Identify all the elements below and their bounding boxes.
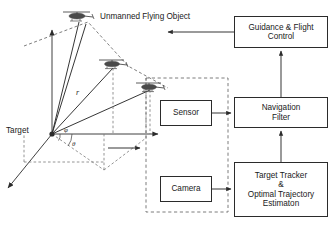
label-ufo-line-3: Object xyxy=(166,12,190,21)
block-guidance-line-1: Guidance & Flight xyxy=(248,23,313,32)
helicopter-top xyxy=(63,12,94,21)
target-vertex-marker xyxy=(49,131,54,136)
line-of-sight-rays xyxy=(52,22,150,134)
block-guidance-flight-control[interactable]: Guidance & Flight Control xyxy=(234,16,328,48)
block-navigation-line-2: Filter xyxy=(262,113,301,122)
block-navigation-line-1: Navigation xyxy=(262,103,301,112)
diagram-canvas: Guidance & Flight Control Navigation Fil… xyxy=(0,0,334,241)
block-tracker-line-1: Target Tracker xyxy=(248,171,314,180)
block-tracker-line-4: Estimaton xyxy=(248,199,314,208)
block-camera[interactable]: Camera xyxy=(160,176,212,202)
label-target: Target xyxy=(6,126,29,136)
ground-projection-guides xyxy=(24,68,150,170)
block-target-tracker-optimal-trajectory-estimator[interactable]: Target Tracker & Optimal Trajectory Esti… xyxy=(234,162,328,217)
block-tracker-line-3: Optimal Trajectory xyxy=(248,190,314,199)
label-range-symbol: r xyxy=(76,88,79,97)
block-camera-label: Camera xyxy=(171,184,200,193)
block-guidance-line-2: Control xyxy=(248,32,313,41)
label-ufo-line-2: Flying xyxy=(142,12,164,21)
block-sensor[interactable]: Sensor xyxy=(160,100,212,126)
label-elevation-symbol: θ xyxy=(72,140,75,148)
helicopter-lower xyxy=(136,83,165,92)
block-navigation-filter[interactable]: Navigation Filter xyxy=(234,97,328,128)
label-ufo-line-1: Unmanned xyxy=(100,12,140,21)
label-azimuth-symbol: φ xyxy=(64,126,68,134)
label-unmanned-flying-object: Unmanned Flying Object xyxy=(100,12,190,22)
block-sensor-label: Sensor xyxy=(173,108,199,117)
coordinate-axes xyxy=(8,30,158,188)
block-tracker-line-2: & xyxy=(248,180,314,189)
